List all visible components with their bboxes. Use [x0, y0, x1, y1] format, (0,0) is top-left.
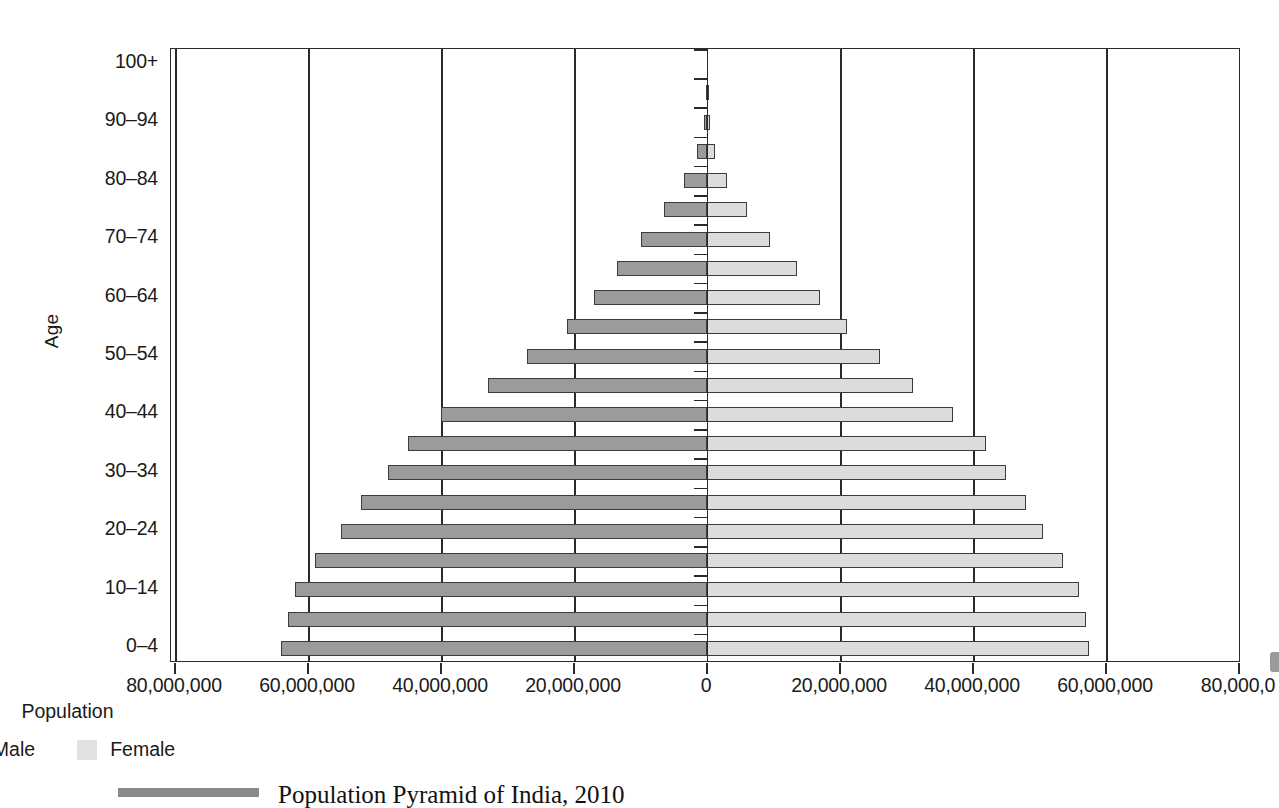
- x-axis-title: Population: [0, 700, 1279, 723]
- bar-female: [707, 465, 1006, 480]
- x-tick-mark: [174, 663, 176, 674]
- zero-axis-line: [707, 49, 708, 661]
- bar-male: [567, 319, 707, 334]
- caption-text: Population Pyramid of India, 2010: [278, 782, 625, 808]
- axis-tick: [694, 517, 707, 519]
- axis-tick: [694, 195, 707, 197]
- legend-label-male: Male: [0, 738, 35, 761]
- x-tick-mark: [706, 663, 708, 674]
- bar-female: [707, 319, 847, 334]
- axis-tick: [694, 283, 707, 285]
- x-tick-mark: [1238, 663, 1240, 674]
- bar-male: [664, 202, 707, 217]
- x-axis-title-text: Population: [21, 700, 113, 722]
- bar-female: [707, 232, 770, 247]
- bar-male: [617, 261, 707, 276]
- bar-female: [707, 612, 1086, 627]
- plot-area: [170, 48, 1240, 662]
- y-tick-label: 90–94: [0, 108, 158, 131]
- axis-tick: [694, 78, 707, 80]
- caption-rule-icon: [118, 788, 259, 797]
- y-tick-label: 30–34: [0, 459, 158, 482]
- x-tick-label: 40,000,000: [924, 674, 1020, 697]
- y-tick-label: 80–84: [0, 167, 158, 190]
- axis-tick: [694, 575, 707, 577]
- x-tick-mark: [307, 663, 309, 674]
- y-tick-label: 60–64: [0, 284, 158, 307]
- x-tick-label: 20,000,000: [525, 674, 621, 697]
- axis-tick: [694, 49, 707, 51]
- y-tick-label: 10–14: [0, 576, 158, 599]
- axis-tick: [694, 488, 707, 490]
- bar-female: [707, 436, 986, 451]
- y-tick-label: 50–54: [0, 342, 158, 365]
- bar-male: [408, 436, 707, 451]
- page-edge-artifact: [1270, 652, 1279, 672]
- bar-male: [315, 553, 707, 568]
- bar-male: [441, 407, 707, 422]
- bar-female: [707, 582, 1079, 597]
- legend-label-female: Female: [110, 738, 175, 761]
- bar-male: [288, 612, 707, 627]
- bar-male: [341, 524, 707, 539]
- x-tick-mark: [440, 663, 442, 674]
- bar-female: [707, 407, 953, 422]
- gridline: [973, 49, 975, 661]
- y-tick-label: 0–4: [0, 634, 158, 657]
- x-tick-mark: [573, 663, 575, 674]
- axis-tick: [694, 312, 707, 314]
- bar-female: [707, 261, 797, 276]
- x-tick-label: 0: [701, 674, 712, 697]
- x-tick-label: 20,000,000: [791, 674, 887, 697]
- bar-female: [707, 641, 1089, 656]
- x-tick-mark: [1105, 663, 1107, 674]
- axis-tick: [694, 371, 707, 373]
- y-tick-label: 70–74: [0, 225, 158, 248]
- bar-female: [707, 378, 913, 393]
- bar-female: [707, 202, 747, 217]
- bar-male: [488, 378, 707, 393]
- axis-tick: [694, 546, 707, 548]
- bar-male: [684, 173, 707, 188]
- bar-female: [707, 290, 820, 305]
- y-tick-label: 20–24: [0, 517, 158, 540]
- axis-tick: [694, 137, 707, 139]
- axis-tick: [694, 107, 707, 109]
- gridline: [1106, 49, 1108, 661]
- legend-item-male: Male: [0, 738, 35, 761]
- legend-item-female: Female: [77, 738, 175, 761]
- x-tick-label: 60,000,000: [259, 674, 355, 697]
- bar-male: [641, 232, 708, 247]
- x-tick-label: 60,000,000: [1057, 674, 1153, 697]
- bar-male: [527, 349, 707, 364]
- axis-tick: [694, 400, 707, 402]
- gridline: [308, 49, 310, 661]
- bar-male: [594, 290, 707, 305]
- legend-swatch-female-icon: [77, 740, 97, 760]
- bar-female: [707, 553, 1063, 568]
- y-tick-label: 100+: [0, 50, 158, 73]
- axis-tick: [694, 458, 707, 460]
- bar-male: [295, 582, 707, 597]
- axis-tick: [694, 254, 707, 256]
- legend: Male Female: [0, 738, 1279, 761]
- bar-female: [707, 173, 727, 188]
- x-tick-label: 40,000,000: [392, 674, 488, 697]
- axis-tick: [694, 605, 707, 607]
- x-tick-label: 80,000,000: [126, 674, 222, 697]
- gridline: [175, 49, 177, 661]
- bar-female: [707, 524, 1043, 539]
- plot-inner: [171, 49, 1239, 661]
- axis-tick: [694, 634, 707, 636]
- bar-male: [388, 465, 707, 480]
- figure-caption: Population Pyramid of India, 2010: [118, 782, 625, 808]
- bar-male: [697, 144, 707, 159]
- y-tick-label: 40–44: [0, 400, 158, 423]
- bar-female: [707, 495, 1026, 510]
- x-tick-mark: [839, 663, 841, 674]
- bar-male: [281, 641, 707, 656]
- bar-male: [361, 495, 707, 510]
- axis-tick: [694, 341, 707, 343]
- axis-tick: [694, 429, 707, 431]
